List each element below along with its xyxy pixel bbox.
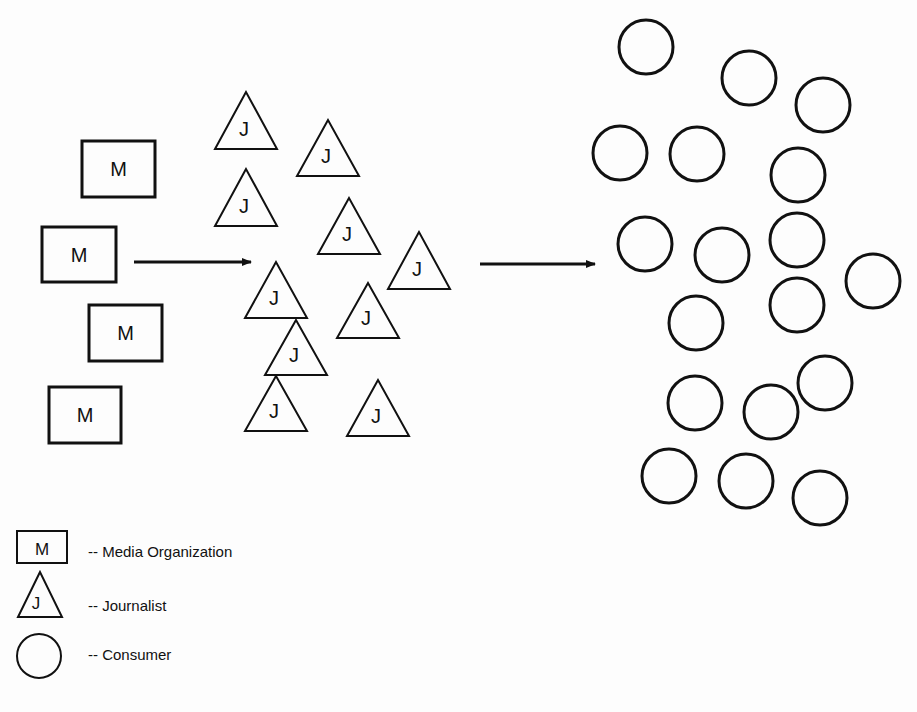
media-organization-label: M <box>110 158 127 180</box>
consumer-circle-icon <box>793 471 847 525</box>
consumer-circle-icon <box>770 213 824 267</box>
journalist-label: J <box>269 287 279 309</box>
consumer-circle-icon <box>719 454 773 508</box>
consumer-circle-icon <box>618 217 672 271</box>
legend-circle-icon <box>17 634 61 678</box>
journalist-label: J <box>412 258 422 280</box>
consumer-circle-icon <box>619 20 673 74</box>
journalist-label: J <box>321 145 331 167</box>
consumer-circle-icon <box>796 78 850 132</box>
consumer-circle-icon <box>846 254 900 308</box>
arrow-group <box>134 262 595 264</box>
legend-triangle-label: J <box>32 594 41 613</box>
consumer-circle-icon <box>670 127 724 181</box>
media-organization-label: M <box>71 244 88 266</box>
journalist-label: J <box>371 405 381 427</box>
journalist-label: J <box>361 307 371 329</box>
journalist-label: J <box>269 400 279 422</box>
legend-text-journalist: -- Journalist <box>88 597 167 614</box>
legend-text-consumer: -- Consumer <box>88 646 171 663</box>
consumer-group <box>593 20 900 525</box>
media-organization-node: M <box>89 305 162 361</box>
media-organization-node: M <box>49 387 121 443</box>
journalist-group: JJJJJJJJJJ <box>215 92 450 436</box>
journalist-node: J <box>347 380 409 436</box>
legend: M -- Media Organization J -- Journalist … <box>17 531 232 678</box>
consumer-circle-icon <box>770 278 824 332</box>
consumer-circle-icon <box>642 449 696 503</box>
journalist-label: J <box>239 118 249 140</box>
legend-item-journalist: J -- Journalist <box>18 572 167 617</box>
journalist-node: J <box>318 198 380 254</box>
journalist-label: J <box>342 223 352 245</box>
consumer-circle-icon <box>669 296 723 350</box>
journalist-node: J <box>337 283 399 338</box>
media-organization-label: M <box>77 404 94 426</box>
legend-item-consumer: -- Consumer <box>17 634 171 678</box>
diagram-canvas: MMMM JJJJJJJJJJ M -- Media Organization … <box>0 0 917 712</box>
journalist-node: J <box>245 376 307 431</box>
journalist-node: J <box>245 262 307 318</box>
legend-text-media-organization: -- Media Organization <box>88 543 232 560</box>
journalist-label: J <box>289 344 299 366</box>
journalist-label: J <box>239 195 249 217</box>
media-organization-node: M <box>42 227 116 282</box>
consumer-circle-icon <box>744 385 798 439</box>
journalist-node: J <box>297 120 359 176</box>
consumer-circle-icon <box>798 356 852 410</box>
journalist-node: J <box>215 169 277 226</box>
journalist-node: J <box>388 232 450 289</box>
media-flow-diagram: MMMM JJJJJJJJJJ M -- Media Organization … <box>0 0 917 712</box>
consumer-circle-icon <box>593 126 647 180</box>
consumer-circle-icon <box>668 376 722 430</box>
legend-item-media-organization: M -- Media Organization <box>17 531 232 563</box>
media-organization-node: M <box>82 141 155 197</box>
journalist-node: J <box>265 320 327 375</box>
journalist-node: J <box>215 92 277 149</box>
consumer-circle-icon <box>771 148 825 202</box>
media-organization-group: MMMM <box>42 141 162 443</box>
legend-square-label: M <box>35 540 49 559</box>
media-organization-label: M <box>117 322 134 344</box>
consumer-circle-icon <box>722 51 776 105</box>
consumer-circle-icon <box>695 228 749 282</box>
